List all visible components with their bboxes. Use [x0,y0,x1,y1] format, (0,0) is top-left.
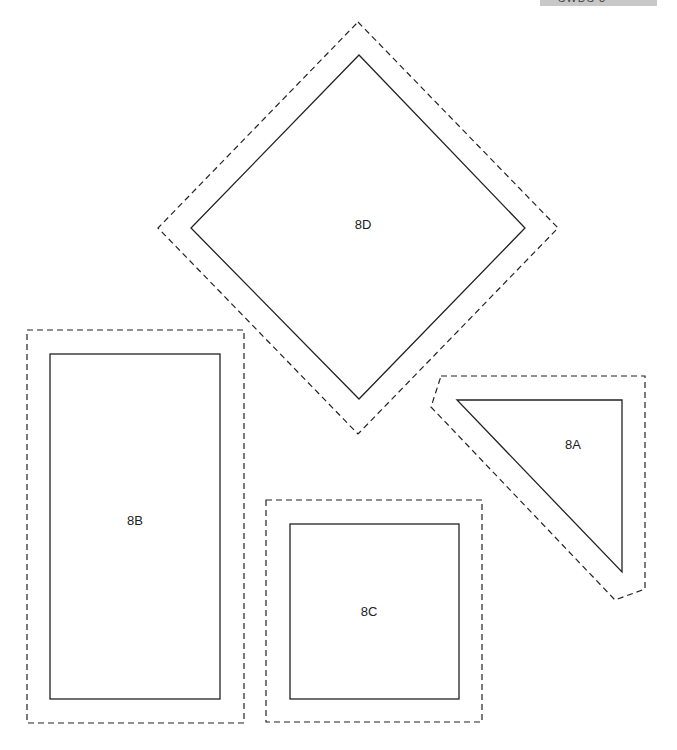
piece-8d: 8D [158,22,558,434]
piece-8d-label: 8D [355,217,372,232]
pattern-diagram: 8D 8B 8A 8C [0,0,677,750]
piece-8a: 8A [431,376,645,600]
piece-8b: 8B [27,330,244,723]
piece-8c: 8C [266,500,482,722]
piece-8a-cut-line [431,376,645,600]
piece-8b-label: 8B [127,513,143,528]
piece-8c-label: 8C [361,604,378,619]
piece-8a-label: 8A [565,437,581,452]
